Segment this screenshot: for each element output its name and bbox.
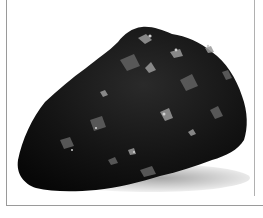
coal-lump-photo xyxy=(0,0,263,218)
